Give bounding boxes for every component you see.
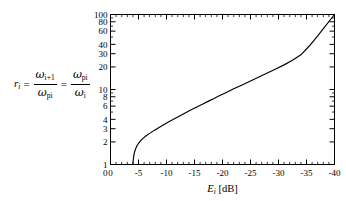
equation-equals-1: = <box>23 79 29 90</box>
y-tick-label: 3 <box>103 124 108 134</box>
x-tick-label: -15 <box>189 168 201 178</box>
x-tick-label: -10 <box>161 168 173 178</box>
y-tick-label: 100 <box>94 10 108 20</box>
equation-equals-2: = <box>61 79 67 90</box>
curve-path <box>133 15 335 165</box>
y-axis-zero-label: 0 <box>103 168 108 178</box>
fraction-1-denominator: ωpi <box>36 85 55 101</box>
equation-fraction-2: ωpi ωi <box>71 68 90 100</box>
y-tick-label: 60 <box>99 26 109 36</box>
data-curve <box>133 15 335 165</box>
x-tick-label: -20 <box>217 168 229 178</box>
y-tick-label: 30 <box>99 49 109 59</box>
x-tick-label: 0 <box>108 168 113 178</box>
x-tick-label: -30 <box>273 168 285 178</box>
x-tick-label: -25 <box>245 168 257 178</box>
fraction-2-numerator: ωpi <box>71 68 90 85</box>
x-tick-label: -5 <box>135 168 143 178</box>
y-tick-label: 4 <box>103 115 108 125</box>
x-axis-title: Ei [dB] <box>206 183 237 197</box>
x-axis-title-text: Ei [dB] <box>206 183 237 197</box>
axes-frame <box>111 15 335 165</box>
x-axis-ticks <box>111 15 335 165</box>
equation-annotation: ri = ωi+1 ωpi = ωpi ωi <box>14 62 106 106</box>
equation-lhs: ri <box>14 78 20 91</box>
x-tick-label: -35 <box>301 168 313 178</box>
x-tick-label: -40 <box>329 168 341 178</box>
figure-panel: ri = ωi+1 ωpi = ωpi ωi 0-5-10-15-20-25-3… <box>0 0 346 201</box>
y-tick-label: 2 <box>103 137 108 147</box>
y-axis-ticks <box>111 15 335 165</box>
fraction-1-numerator: ωi+1 <box>34 68 57 85</box>
fraction-2-denominator: ωi <box>73 85 88 101</box>
equation-fraction-1: ωi+1 ωpi <box>34 68 57 100</box>
x-axis-tick-labels: 0-5-10-15-20-25-30-35-40 <box>108 168 341 178</box>
y-tick-label: 40 <box>99 40 109 50</box>
